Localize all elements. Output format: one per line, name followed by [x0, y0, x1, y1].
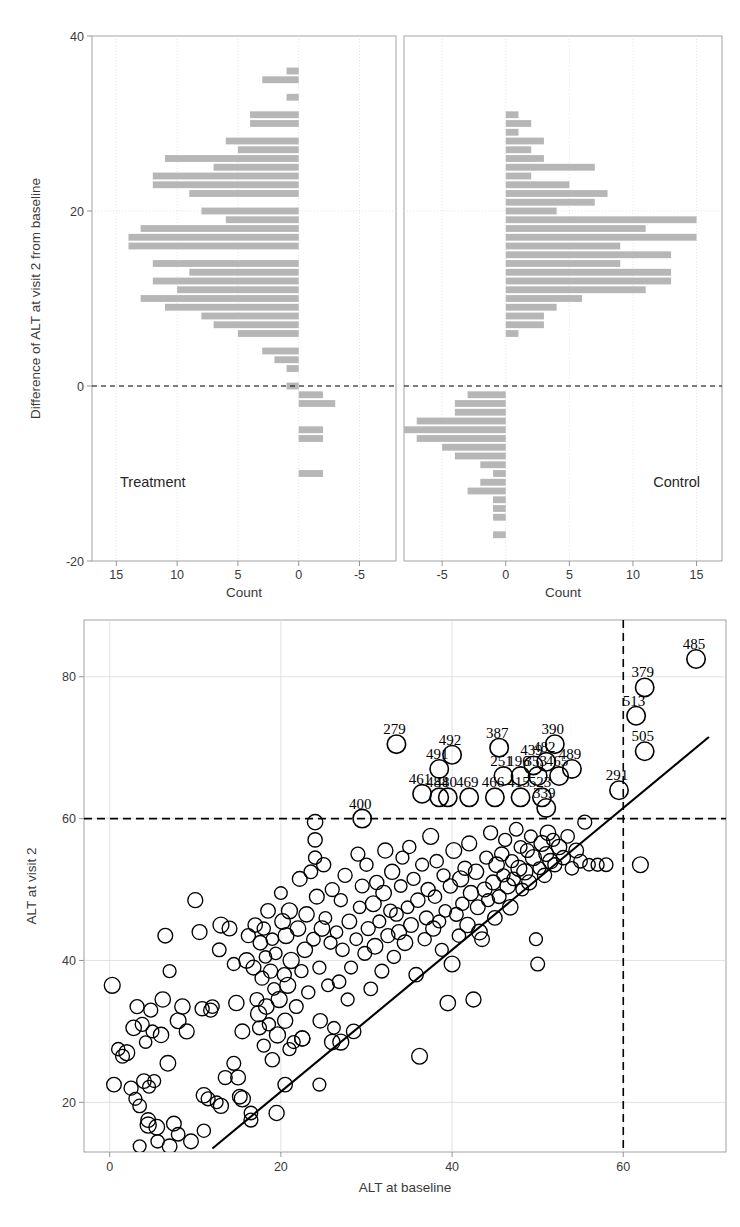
scatter-marker: [336, 943, 349, 956]
scatter-marker: [170, 1013, 186, 1029]
histogram-bar: [250, 111, 299, 118]
point-id-label: 469: [456, 774, 479, 790]
histogram-bar: [189, 269, 298, 276]
scatter-marker: [334, 894, 347, 907]
scatter-marker: [201, 1092, 215, 1106]
histogram-bar: [214, 321, 299, 328]
scatter-marker: [307, 932, 321, 946]
histogram-bar: [201, 313, 298, 320]
scatter-marker: [213, 1098, 228, 1113]
histogram-bar: [165, 304, 299, 311]
scatter-marker: [463, 886, 478, 901]
scatter-marker: [443, 879, 457, 893]
shared-y-axis-title: Difference of ALT at visit 2 from baseli…: [28, 178, 43, 419]
scatter-marker: [158, 928, 173, 943]
point-id-label: 390: [542, 721, 565, 737]
scatter-marker-labeled: [687, 650, 705, 668]
scatter-marker: [155, 992, 170, 1007]
scatter-marker: [308, 833, 322, 847]
histogram-bar: [404, 426, 506, 433]
scatter-marker: [255, 971, 269, 985]
histogram-bar: [468, 391, 506, 398]
scatter-marker: [299, 907, 314, 922]
labeled-points: 4853795135052913903874922794914394824892…: [349, 636, 705, 828]
scatter-marker: [264, 964, 278, 978]
scatter-marker: [342, 914, 357, 929]
scatter-marker: [385, 864, 400, 879]
scatter-marker: [355, 879, 369, 893]
scatter-marker: [373, 915, 386, 928]
scatter-marker: [375, 964, 389, 978]
point-id-label: 339: [533, 785, 556, 801]
scatter-y-tick-label: 80: [62, 670, 76, 684]
histogram-bar: [506, 313, 544, 320]
x-tick-label: -5: [437, 568, 448, 582]
scatter-marker: [277, 968, 291, 982]
histogram-bar: [506, 146, 531, 153]
scatter-marker: [229, 995, 244, 1010]
histogram-bar: [226, 138, 299, 145]
histogram-bar: [417, 418, 506, 425]
scatter-marker-labeled: [486, 788, 504, 806]
histogram-bar: [238, 330, 299, 337]
histogram-bar: [153, 260, 299, 267]
control-x-axis-title: Count: [545, 585, 581, 600]
histogram-bar: [455, 409, 506, 416]
scatter-marker: [412, 1048, 428, 1064]
scatter-marker: [253, 936, 267, 950]
scatter-marker: [148, 1075, 161, 1088]
point-id-label: 415: [507, 774, 530, 790]
scatter-marker: [446, 843, 462, 859]
scatter-marker: [271, 991, 287, 1007]
scatter-marker: [561, 830, 575, 844]
scatter-marker: [234, 1091, 250, 1107]
scatter-marker: [365, 896, 381, 912]
point-id-label: 379: [631, 664, 654, 680]
scatter-marker: [394, 880, 407, 893]
scatter-marker: [578, 815, 592, 829]
histogram-bar: [506, 216, 697, 223]
scatter-marker: [360, 858, 373, 871]
scatter-marker: [358, 947, 372, 961]
y-tick-label: 40: [70, 30, 84, 44]
scatter-marker: [184, 1134, 199, 1149]
histogram-bar: [506, 173, 531, 180]
scatter-marker: [104, 977, 120, 993]
treatment-panel-label: Treatment: [120, 474, 186, 490]
histogram-bar: [128, 243, 298, 250]
scatter-marker: [295, 965, 308, 978]
scatter-marker: [124, 1081, 138, 1095]
scatter-marker: [499, 833, 512, 846]
point-id-label: 400: [349, 796, 372, 812]
x-tick-label: 15: [109, 568, 123, 582]
scatter-marker-labeled: [610, 781, 628, 799]
scatter-marker: [304, 865, 318, 879]
scatter-marker: [599, 858, 613, 872]
scatter-marker: [328, 1022, 341, 1035]
histogram-bar: [455, 453, 506, 460]
x-tick-label: 15: [690, 568, 704, 582]
histogram-bar: [274, 356, 298, 363]
histogram-bar: [177, 286, 299, 293]
scatter-marker: [126, 1020, 141, 1035]
histogram-bar: [299, 400, 335, 407]
histogram-bar: [506, 304, 557, 311]
scatter-marker: [146, 1025, 159, 1038]
scatter-marker: [531, 957, 545, 971]
scatter-marker: [416, 858, 429, 871]
histogram-bar: [141, 225, 299, 232]
scatter-marker: [591, 858, 604, 871]
histogram-bar: [506, 243, 620, 250]
histogram-bar: [455, 400, 506, 407]
scatter-marker: [235, 1024, 250, 1039]
scatter-marker: [133, 1140, 146, 1153]
histogram-bar: [299, 391, 323, 398]
scatter-marker: [137, 1074, 152, 1089]
scatter-marker: [290, 921, 305, 936]
histogram-bar: [442, 444, 506, 451]
histogram-bar: [493, 470, 506, 477]
scatter-x-axis-title: ALT at baseline: [359, 1180, 452, 1195]
histogram-bar: [506, 269, 671, 276]
histogram-bar: [506, 138, 544, 145]
scatter-marker: [353, 901, 365, 913]
